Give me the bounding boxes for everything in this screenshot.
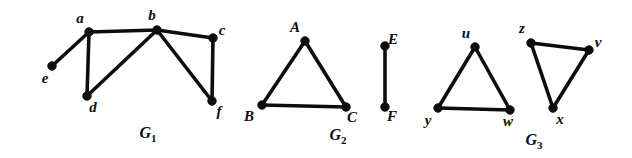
caption-base: G [329, 126, 341, 143]
caption-subscript: 3 [537, 139, 543, 151]
vertex-dot-c [209, 34, 217, 42]
caption-base: G [525, 131, 537, 148]
edge-a-d [87, 32, 89, 96]
graph-caption-g2: G2 [329, 126, 347, 146]
vertex-dot-A [301, 37, 309, 45]
vertex-A: A [289, 19, 309, 45]
graph-g2: ABCEFG2 [243, 19, 398, 146]
edge-v-x [553, 50, 589, 108]
vertex-label-E: E [387, 31, 398, 47]
vertex-label-f: f [217, 103, 224, 119]
vertex-B: B [243, 101, 266, 124]
vertex-C: C [342, 103, 358, 125]
vertex-dot-a [85, 28, 93, 36]
edge-B-C [262, 105, 346, 107]
vertex-label-c: c [219, 22, 226, 38]
vertex-c: c [209, 22, 226, 42]
vertex-a: a [76, 10, 93, 36]
vertex-z: z [518, 20, 535, 47]
vertex-label-y: y [423, 112, 432, 128]
graph-canvas: abcdefG1ABCEFG2uywzvxG3 [0, 0, 632, 158]
vertex-dot-e [48, 62, 56, 70]
graph-caption-g3: G3 [525, 131, 543, 151]
vertex-label-d: d [89, 99, 97, 115]
graph-g1: abcdefG1 [42, 7, 226, 144]
vertex-dot-v [585, 46, 593, 54]
edge-b-c [157, 30, 213, 38]
vertex-label-A: A [289, 19, 300, 35]
vertex-dot-b [153, 26, 161, 34]
graph-caption-g1: G1 [139, 124, 156, 144]
edge-u-y [438, 47, 475, 108]
edge-b-d [87, 30, 157, 96]
edge-group [438, 43, 589, 110]
edge-group [262, 41, 385, 107]
vertex-F: F [381, 103, 397, 124]
vertex-dot-y [434, 104, 442, 112]
edge-a-b [89, 30, 157, 32]
vertex-dot-u [471, 43, 479, 51]
vertex-x: x [549, 104, 564, 127]
edge-group [52, 30, 213, 101]
vertex-d: d [83, 92, 97, 115]
vertex-label-F: F [386, 108, 397, 124]
graphs-layer: abcdefG1ABCEFG2uywzvxG3 [42, 7, 602, 151]
vertex-label-v: v [595, 34, 602, 50]
vertex-dot-z [527, 39, 535, 47]
vertex-u: u [462, 25, 479, 51]
vertex-y: y [423, 104, 443, 128]
vertex-label-x: x [555, 111, 564, 127]
edge-b-f [157, 30, 212, 101]
caption-base: G [139, 124, 151, 141]
edge-A-B [262, 41, 305, 105]
edge-A-C [305, 41, 346, 107]
caption-subscript: 2 [341, 134, 347, 146]
vertex-label-a: a [76, 10, 84, 26]
vertex-label-B: B [243, 108, 254, 124]
vertex-f: f [208, 97, 224, 119]
edge-z-x [531, 43, 553, 108]
edge-z-v [531, 43, 589, 50]
vertex-label-z: z [518, 20, 525, 36]
vertex-dot-B [258, 101, 266, 109]
caption-subscript: 1 [151, 132, 157, 144]
edge-a-e [52, 32, 89, 66]
graph-g3: uywzvxG3 [423, 20, 602, 151]
vertex-e: e [42, 62, 57, 86]
vertex-label-b: b [148, 7, 156, 23]
vertex-v: v [585, 34, 602, 54]
vertex-label-C: C [347, 109, 358, 125]
edge-c-f [212, 38, 213, 101]
vertex-E: E [381, 31, 398, 50]
vertex-label-w: w [503, 113, 514, 129]
vertex-label-u: u [462, 25, 470, 41]
graph-figure: abcdefG1ABCEFG2uywzvxG3 [0, 0, 632, 158]
vertex-dot-f [208, 97, 216, 105]
edge-y-w [438, 108, 510, 110]
edge-u-w [475, 47, 510, 110]
vertex-label-e: e [42, 70, 49, 86]
